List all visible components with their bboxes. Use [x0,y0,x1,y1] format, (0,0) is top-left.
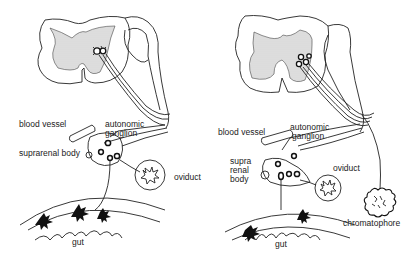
label-suprarenal-body-left: suprarenal body [19,149,80,158]
label-chromatophore: chromatophore [343,219,400,228]
label-autonomic-ganglion-right-line2: ganglion [292,132,324,141]
label-autonomic-ganglion-left-line2: ganglion [105,129,137,138]
right-gut [225,209,355,242]
left-gut [20,198,165,240]
label-oviduct-right: oviduct [333,164,360,173]
right-oviduct [315,175,341,201]
label-blood-vessel-right: blood vessel [218,128,265,137]
label-blood-vessel-left: blood vessel [19,120,66,129]
right-blood-vessel [261,130,292,145]
right-root-sheath [328,24,364,132]
label-oviduct-left: oviduct [174,173,201,182]
left-autonomic-ganglion [99,140,120,160]
left-blood-vessel [69,125,95,142]
label-gut-left: gut [72,238,84,247]
right-suprarenal-body [262,158,310,186]
right-chromatophore [364,188,396,217]
label-suprarenal-right-line3: body [230,175,248,184]
label-gut-right: gut [275,240,287,249]
left-oviduct [135,160,165,190]
